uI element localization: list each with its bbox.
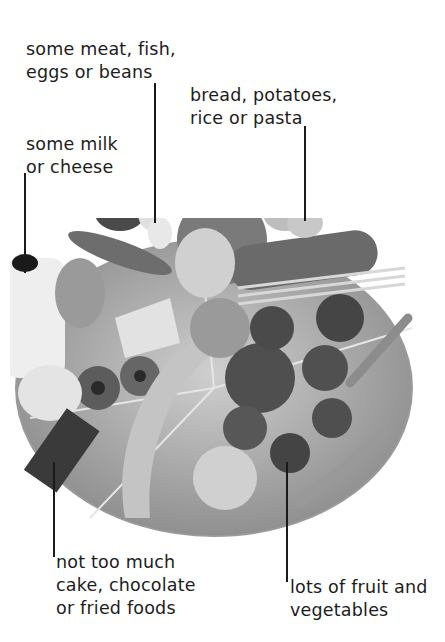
- label-line: rice or pasta: [190, 107, 337, 130]
- apple-icon: [193, 446, 257, 510]
- leader-line-meat: [154, 83, 156, 223]
- leader-line-produce: [286, 462, 288, 582]
- leader-line-treats: [53, 462, 55, 557]
- label-line: some milk: [26, 133, 118, 156]
- broccoli-icon: [225, 343, 295, 413]
- label-fruit-vegetables: lots of fruit and vegetables: [290, 576, 428, 622]
- label-line: not too much: [56, 551, 196, 574]
- label-line: or cheese: [26, 156, 118, 179]
- milk-bottle-icon: [10, 258, 65, 378]
- food-plate-illustration: [10, 218, 414, 538]
- label-milk-cheese: some milk or cheese: [26, 133, 118, 179]
- label-meat-fish-eggs-beans: some meat, fish, eggs or beans: [26, 38, 176, 84]
- label-line: some meat, fish,: [26, 38, 176, 61]
- label-cake-chocolate-fried: not too much cake, chocolate or fried fo…: [56, 551, 196, 620]
- label-line: eggs or beans: [26, 61, 176, 84]
- rice-icon: [175, 228, 235, 298]
- label-bread-potatoes-rice-pasta: bread, potatoes, rice or pasta: [190, 84, 337, 130]
- label-line: bread, potatoes,: [190, 84, 337, 107]
- label-line: cake, chocolate: [56, 574, 196, 597]
- label-line: or fried foods: [56, 597, 196, 620]
- tomato-icon: [250, 306, 294, 350]
- leader-line-dairy: [24, 173, 26, 273]
- leader-line-starch: [304, 126, 306, 221]
- label-line: lots of fruit and: [290, 576, 428, 599]
- label-line: vegetables: [290, 599, 428, 622]
- meat-icon: [95, 218, 145, 231]
